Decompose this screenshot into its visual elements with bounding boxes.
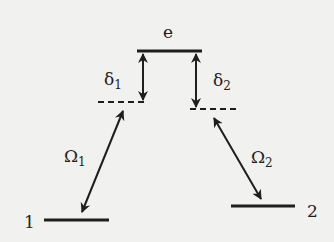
omega1-label: Ω1	[64, 146, 86, 169]
omega2-label: Ω2	[251, 147, 273, 170]
level-2-label: 2	[307, 201, 318, 221]
level-1-label: 1	[24, 212, 35, 232]
delta2-label: δ2	[213, 70, 231, 93]
level-e-label: e	[163, 22, 173, 42]
delta1-label: δ1	[104, 69, 122, 92]
coupling-arrow-1	[82, 111, 123, 212]
energy-level-diagram: e δ1 δ2 1 2 Ω1 Ω2	[0, 0, 334, 242]
